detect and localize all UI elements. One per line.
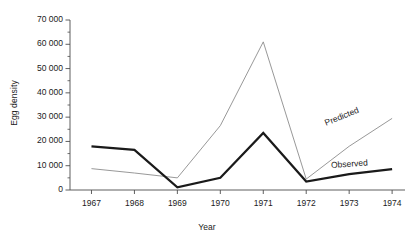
chart-container: Egg density Year 010 00020 00030 00040 0… — [0, 0, 414, 245]
plot-area — [0, 0, 414, 245]
